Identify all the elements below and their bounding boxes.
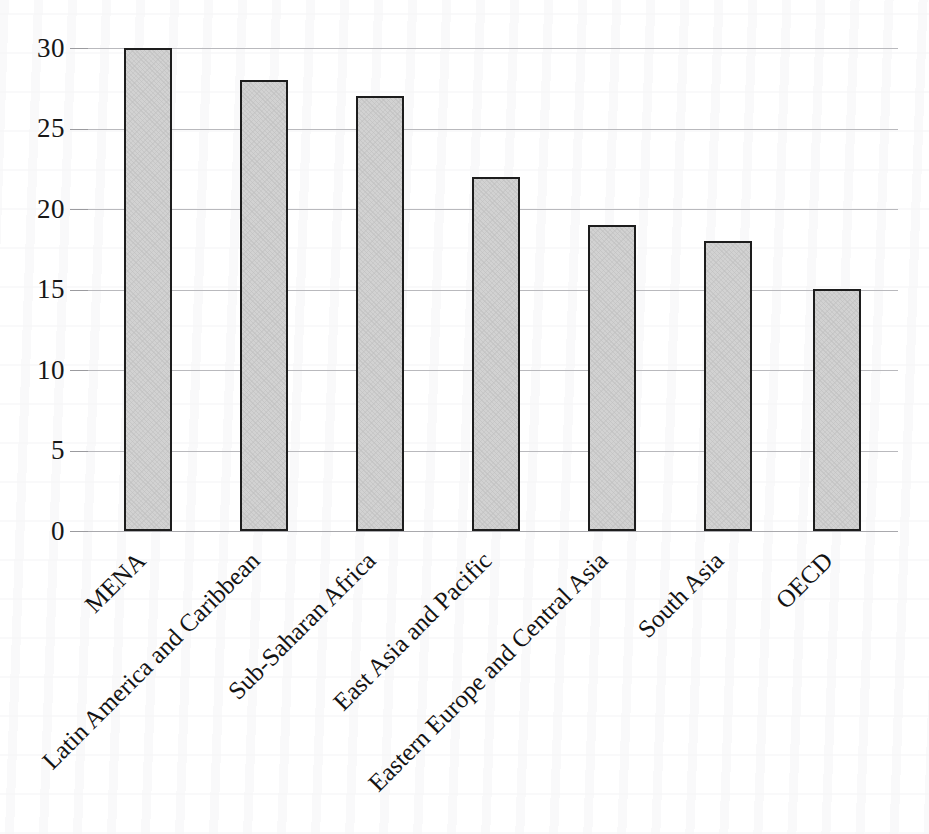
bar-latin-america-and-caribbean [240, 80, 288, 531]
bar-texture [706, 243, 750, 529]
y-tick-mark-15 [70, 290, 88, 291]
y-tick-mark-30 [70, 48, 88, 49]
bar-texture [474, 179, 518, 529]
bar-south-asia [704, 241, 752, 531]
bar-eastern-europe-and-central-asia [588, 225, 636, 531]
y-tick-label-30: 30 [5, 35, 65, 62]
y-tick-label-0: 0 [5, 518, 65, 545]
bar-east-asia-and-pacific [472, 177, 520, 531]
plot-area [88, 48, 898, 531]
y-tick-mark-10 [70, 370, 88, 371]
bar-texture [590, 227, 634, 529]
bar-texture [815, 291, 859, 529]
y-tick-label-10: 10 [5, 357, 65, 384]
bar-texture [242, 82, 286, 529]
x-label-sub-saharan-africa: Sub-Saharan Africa [0, 547, 380, 834]
bar-sub-saharan-africa [356, 96, 404, 531]
y-tick-label-20: 20 [5, 196, 65, 223]
gridline-0 [88, 531, 898, 532]
gridline-30 [88, 48, 898, 49]
y-tick-mark-25 [70, 129, 88, 130]
y-tick-label-25: 25 [5, 115, 65, 142]
y-tick-mark-5 [70, 451, 88, 452]
y-tick-mark-20 [70, 209, 88, 210]
bar-texture [358, 98, 402, 529]
y-tick-label-5: 5 [5, 437, 65, 464]
y-tick-mark-0 [70, 531, 88, 532]
bar-chart: 30 25 20 15 10 5 0 MENA Latin Ameri [0, 0, 929, 834]
bar-mena [124, 48, 172, 531]
y-tick-label-15: 15 [5, 276, 65, 303]
gridline-25 [88, 129, 898, 130]
bar-oecd [813, 289, 861, 531]
bar-texture [126, 50, 170, 529]
